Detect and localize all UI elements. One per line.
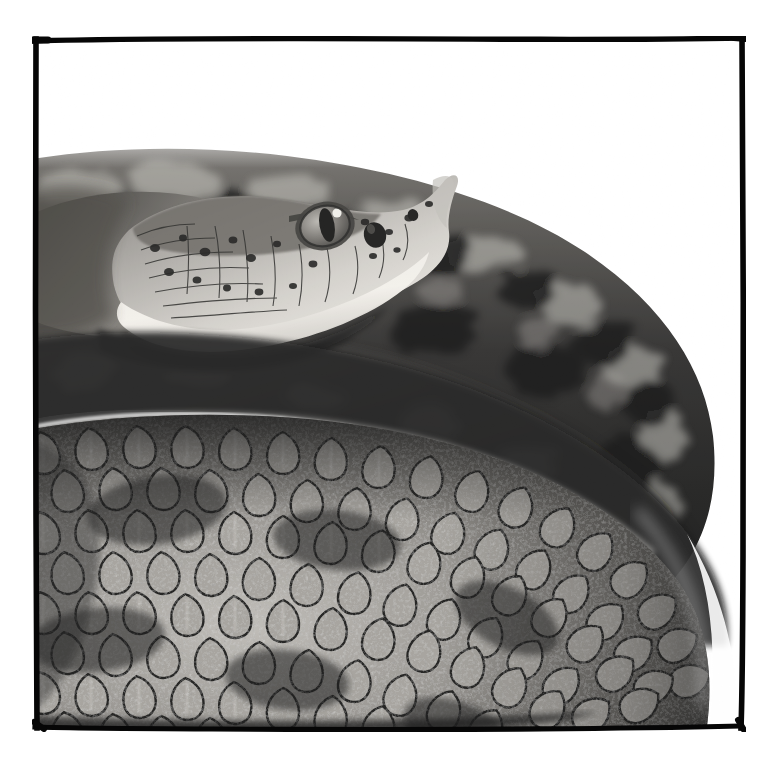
photograph-canvas (0, 0, 774, 763)
snake-photograph (37, 40, 743, 728)
